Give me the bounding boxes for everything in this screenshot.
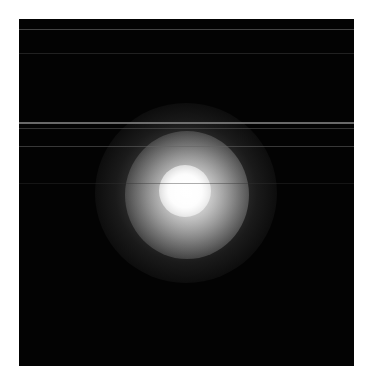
glow-core	[159, 165, 211, 217]
streak-line	[19, 128, 354, 129]
streak-line	[19, 183, 354, 184]
streak-line	[19, 29, 354, 30]
streak-line	[19, 122, 354, 124]
dark-image-frame	[19, 19, 354, 366]
glow-body	[125, 131, 249, 259]
streak-line	[19, 53, 354, 54]
glow-halo	[95, 103, 277, 283]
streak-line	[19, 146, 354, 147]
